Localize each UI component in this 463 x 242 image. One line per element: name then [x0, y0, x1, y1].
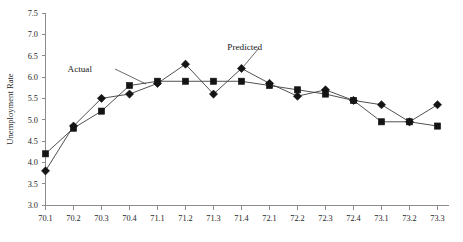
x-tick-label: 72.2 — [290, 214, 305, 223]
data-point-predicted — [322, 91, 328, 97]
series-line-predicted — [46, 81, 438, 154]
x-tick-label: 73.3 — [430, 214, 445, 223]
y-tick-label: 5.0 — [28, 116, 38, 125]
chart-annotations-group: ActualPredicted — [68, 42, 263, 84]
data-point-predicted — [182, 78, 188, 84]
y-tick-label: 5.5 — [28, 94, 38, 103]
x-tick-label: 70.1 — [38, 214, 53, 223]
data-point-actual — [293, 92, 301, 100]
data-point-predicted — [126, 82, 132, 88]
data-point-predicted — [98, 108, 104, 114]
y-tick-label: 7.0 — [28, 30, 38, 39]
annotation-label-actual: Actual — [68, 64, 93, 74]
y-tick-label: 6.0 — [28, 73, 38, 82]
x-tick-label: 73.2 — [402, 214, 417, 223]
annotation-leader-line — [115, 69, 146, 84]
data-point-predicted — [70, 125, 76, 131]
y-tick-label: 4.0 — [28, 158, 38, 167]
data-point-predicted — [294, 87, 300, 93]
data-point-actual — [377, 101, 385, 109]
y-tick-label: 7.5 — [28, 9, 38, 18]
y-axis-title: Unemployment Rate — [5, 73, 15, 145]
data-point-predicted — [154, 78, 160, 84]
y-tick-label: 3.5 — [28, 180, 38, 189]
x-tick-label: 70.3 — [94, 214, 109, 223]
data-point-predicted — [434, 123, 440, 129]
x-tick-label: 70.4 — [122, 214, 137, 223]
data-point-actual — [125, 90, 133, 98]
x-tick-label: 70.2 — [66, 214, 81, 223]
x-tick-label: 71.2 — [178, 214, 193, 223]
y-axis-group: 3.03.54.04.55.05.56.06.57.07.5 — [28, 9, 46, 210]
y-tick-label: 4.5 — [28, 137, 38, 146]
y-tick-label: 3.0 — [28, 201, 38, 210]
x-axis-ticks — [46, 206, 438, 210]
data-point-predicted — [238, 78, 244, 84]
y-axis-ticks — [42, 13, 46, 205]
data-point-predicted — [266, 82, 272, 88]
x-tick-label: 71.4 — [234, 214, 249, 223]
y-axis-tick-labels: 3.03.54.04.55.05.56.06.57.07.5 — [28, 9, 38, 210]
data-point-predicted — [350, 97, 356, 103]
chart-plot-area: 3.03.54.04.55.05.56.06.57.07.5 70.170.27… — [0, 0, 463, 242]
data-point-actual — [41, 167, 49, 175]
data-point-predicted — [378, 119, 384, 125]
x-tick-label: 72.1 — [262, 214, 277, 223]
data-point-predicted — [42, 151, 48, 157]
series-markers-group — [41, 60, 441, 175]
x-tick-label: 72.4 — [346, 214, 361, 223]
data-point-predicted — [210, 78, 216, 84]
data-point-predicted — [406, 119, 412, 125]
x-tick-label: 73.1 — [374, 214, 389, 223]
x-tick-label: 72.3 — [318, 214, 333, 223]
unemployment-rate-chart: 3.03.54.04.55.05.56.06.57.07.5 70.170.27… — [0, 0, 463, 242]
x-axis-tick-labels: 70.170.270.370.471.171.271.371.472.172.2… — [38, 214, 445, 223]
annotation-label-predicted: Predicted — [227, 42, 262, 52]
x-tick-label: 71.3 — [206, 214, 221, 223]
data-point-actual — [433, 101, 441, 109]
x-tick-label: 71.1 — [150, 214, 165, 223]
y-tick-label: 6.5 — [28, 52, 38, 61]
x-axis-group: 70.170.270.370.471.171.271.371.472.172.2… — [38, 206, 449, 224]
